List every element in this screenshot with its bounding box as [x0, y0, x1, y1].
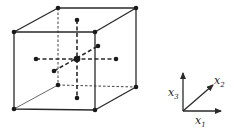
corner-point [93, 108, 98, 113]
corner-point [56, 83, 61, 88]
axis-x2-label: x2 [214, 74, 225, 89]
corner-point [134, 85, 139, 90]
axis-x3-label: x3 [168, 86, 179, 101]
axis-x1-label: x1 [195, 114, 206, 129]
corner-point [93, 30, 98, 35]
center-point [74, 56, 81, 63]
axis-labels: x3 x2 x1 [168, 74, 225, 129]
diagram-svg: x3 x2 x1 [0, 0, 235, 129]
interior-point-front [52, 69, 57, 74]
interior-point-right [114, 57, 119, 62]
interior-point-bottom [75, 96, 80, 101]
interior-point-top [75, 18, 80, 23]
edge-top-left [14, 8, 58, 32]
hidden-edge-bottom-left [14, 85, 58, 109]
corner-point [134, 6, 139, 11]
corner-point [12, 30, 17, 35]
interior-point-back [96, 44, 101, 49]
edge-bottom-right [95, 87, 136, 110]
hidden-edge-bottom-back [58, 85, 136, 87]
edge-top-right [95, 8, 136, 32]
lattice-diagram: x3 x2 x1 [0, 0, 235, 129]
axis-x2-arrow [183, 85, 213, 111]
corner-point [12, 107, 17, 112]
corner-point [56, 6, 61, 11]
interior-point-left [34, 57, 39, 62]
